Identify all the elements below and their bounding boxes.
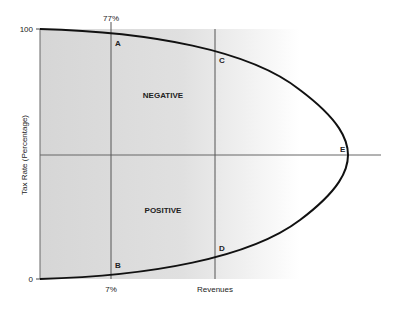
negative-region-label: NEGATIVE <box>143 91 184 100</box>
point-c-label: C <box>219 56 225 65</box>
point-d-label: D <box>219 244 225 253</box>
point-e-label: E <box>340 145 346 154</box>
x-axis-label: Revenues <box>197 285 233 294</box>
point-b-label: B <box>115 261 121 270</box>
x-top-tick-label: 77% <box>103 14 119 23</box>
laffer-curve-diagram: 100 0 77% 7% Revenues Tax Rate (Percenta… <box>0 0 401 309</box>
y-axis-label: Tax Rate (Percentage) <box>20 115 29 195</box>
x-bottom-tick-label: 7% <box>105 285 117 294</box>
y-label-0: 0 <box>29 275 34 284</box>
positive-region-label: POSITIVE <box>145 206 183 215</box>
point-a-label: A <box>115 39 121 48</box>
y-label-100: 100 <box>20 25 34 34</box>
